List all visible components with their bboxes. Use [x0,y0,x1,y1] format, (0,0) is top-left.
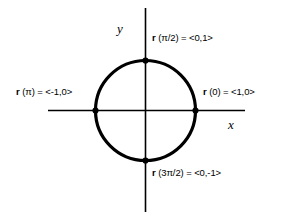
annotation-text: (0) = <1,0> [207,86,255,97]
annotation-r-zero: r (0) = <1,0> [203,86,255,97]
annotation-text: (π/2) = <0,1> [156,32,213,43]
point-marker-zero [192,107,198,113]
annotation-r-pi: r (π) = <-1,0> [16,86,72,97]
annotation-r-three-pi-half: r (3π/2) = <0,-1> [152,167,221,178]
x-axis-label: x [228,117,234,133]
unit-circle-diagram: y x r (π/2) = <0,1> r (π) = <-1,0> r (0)… [0,0,283,220]
point-marker-three-pi-half [142,157,148,163]
annotation-text: (3π/2) = <0,-1> [156,167,221,178]
annotation-text: (π) = <-1,0> [20,86,73,97]
annotation-r-pi-half: r (π/2) = <0,1> [152,32,213,43]
point-marker-pi-half [142,57,148,63]
point-marker-pi [92,107,98,113]
diagram-canvas [0,0,283,220]
y-axis-label: y [117,21,123,37]
